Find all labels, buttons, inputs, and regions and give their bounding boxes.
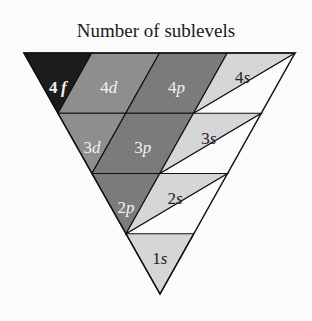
- label-3p: 3p: [134, 138, 151, 157]
- label-4d: 4d: [100, 78, 118, 97]
- label-2s: 2s: [168, 189, 184, 208]
- label-3s: 3s: [201, 129, 217, 148]
- label-4f: 4 f: [49, 78, 69, 97]
- label-4p: 4p: [168, 78, 185, 97]
- sublevel-triangle: 4 f4d4p4s3d3p3s2p2s1s: [0, 0, 312, 321]
- label-1s: 1s: [152, 249, 168, 268]
- label-4s: 4s: [235, 68, 251, 87]
- label-3d: 3d: [83, 138, 101, 157]
- label-2p: 2p: [117, 198, 134, 217]
- sublevel-triangle-diagram: Number of sublevels 4 f4d4p4s3d3p3s2p2s1…: [0, 0, 312, 321]
